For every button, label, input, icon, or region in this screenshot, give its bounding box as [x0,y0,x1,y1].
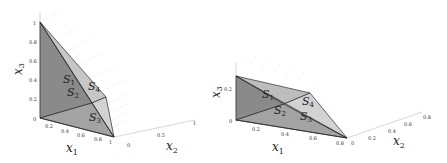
svg-text:0: 0 [33,116,36,122]
left-x2-axis [114,120,195,137]
right-x3-label: x3 [209,86,224,98]
svg-text:0: 0 [229,118,232,124]
svg-text:0.2: 0.2 [368,135,376,141]
svg-text:1: 1 [109,139,112,145]
svg-text:0.8: 0.8 [94,136,102,142]
left-x1-label: x1 [66,141,78,157]
left-x3-label: x3 [11,63,26,75]
svg-text:1: 1 [33,20,36,26]
svg-text:0.8: 0.8 [423,114,431,120]
svg-text:0: 0 [127,142,130,148]
left-face-back [40,22,92,118]
left-x2-label: x2 [166,139,178,155]
svg-text:0.4: 0.4 [61,128,69,134]
right-x2-label: x2 [393,134,405,150]
svg-text:1: 1 [193,120,196,126]
left-x3-ticks: 0 0.2 0.4 0.6 0.8 1 [29,20,37,122]
right-x2-ticks: 0 0.2 0.4 0.6 0.8 [351,114,431,146]
right-x3-ticks: 0 0.2 [224,86,232,124]
right-plot: 0 0.2 x3 0.2 0.4 0.6 0.8 x1 0 0.2 0.4 0.… [209,54,431,156]
svg-text:0: 0 [351,140,354,146]
svg-text:0.5: 0.5 [157,132,165,138]
svg-text:0.6: 0.6 [77,132,85,138]
svg-text:0.2: 0.2 [224,86,232,92]
svg-text:0.4: 0.4 [281,131,289,137]
left-region-s4: S4 [88,80,101,94]
svg-text:0.6: 0.6 [309,135,317,141]
left-plot: 0 0.2 0.4 0.6 0.8 1 x3 0.2 0.4 0.6 0.8 1… [11,10,196,157]
svg-text:0.2: 0.2 [252,126,260,132]
svg-text:0.6: 0.6 [29,58,37,64]
svg-text:0.6: 0.6 [404,121,412,127]
svg-text:0.8: 0.8 [29,39,37,45]
svg-text:0.2: 0.2 [29,96,37,102]
left-x2-ticks: 0 0.5 1 [127,120,196,148]
svg-text:0.2: 0.2 [45,123,53,129]
svg-text:0.8: 0.8 [336,140,344,146]
right-x1-label: x1 [272,140,284,156]
svg-text:0.4: 0.4 [29,77,37,83]
figure-canvas: 0 0.2 0.4 0.6 0.8 1 x3 0.2 0.4 0.6 0.8 1… [0,0,447,163]
